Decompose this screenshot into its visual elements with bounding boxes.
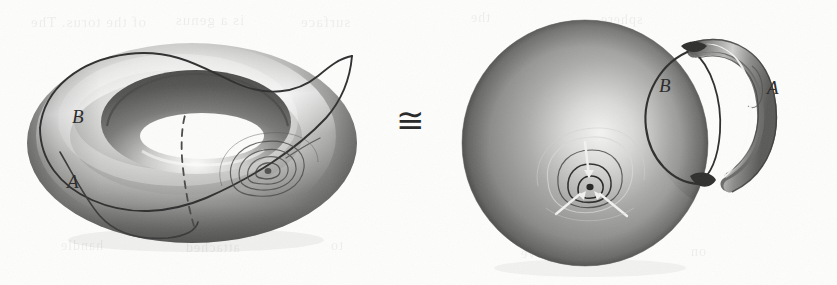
- torus-hole-opening: [140, 113, 264, 159]
- torus-graphic: [20, 40, 370, 252]
- figure-canvas: of the torus. The is a genus surface han…: [0, 0, 837, 285]
- torus-contour-center: [265, 168, 272, 174]
- homeomorphism-symbol: ≅: [396, 104, 424, 138]
- sphere-contour-center: [586, 184, 593, 190]
- sphere-with-handle-graphic: [462, 20, 776, 277]
- artwork-layer: [0, 0, 837, 285]
